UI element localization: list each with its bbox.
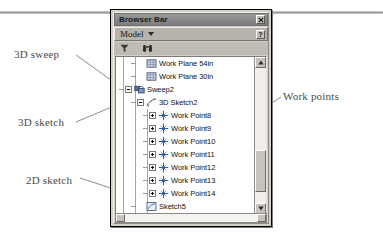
tree-node-label: Work Point9 [171,124,211,133]
collapse-node-button[interactable] [125,86,132,93]
annotation-label-work-points: Work points [283,90,339,102]
tree-connector-stub [119,89,124,90]
expand-node-button[interactable] [149,151,156,158]
tree-indent [116,96,131,109]
expand-node-button[interactable] [149,164,156,171]
model-tree[interactable]: Work Plane 54inWork Plane 30inSweep23D S… [115,56,267,215]
tree-expander-spacer [137,60,146,67]
tree-node[interactable]: Work Point13 [116,174,255,187]
tree-indent [116,135,143,148]
tree-connector-stub [143,128,148,129]
tree-horizontal-scrollbar[interactable] [115,213,267,223]
tree-connector-stub [143,180,148,181]
model-tree-rows: Work Plane 54inWork Plane 30inSweep23D S… [116,57,255,214]
collapse-node-button[interactable] [137,99,144,106]
expand-node-button[interactable] [149,190,156,197]
tree-node-label: Work Point10 [171,137,215,146]
annotation-label-2d-sketch: 2D sketch [26,174,72,186]
tree-node[interactable]: Work Point9 [116,122,255,135]
work-plane-icon [146,58,157,69]
model-selector-label: Model [120,29,144,39]
tree-indent [116,70,131,83]
tree-connector-stub [131,76,136,77]
chevron-down-icon [148,32,154,36]
tree-connector-stub [131,206,136,207]
tree-connector-stub [143,141,148,142]
horizontal-scrollbar-track[interactable] [125,214,257,222]
work-point-icon [158,188,169,199]
tree-node[interactable]: Work Plane 54in [116,57,255,70]
expand-node-button[interactable] [149,125,156,132]
tree-node[interactable]: Sweep2 [116,83,255,96]
work-point-icon [158,149,169,160]
tree-node[interactable]: Work Point11 [116,148,255,161]
tree-connector-stub [131,102,136,103]
sketch-3d-icon [146,97,157,108]
tree-indent [116,200,131,213]
tree-node-label: Work Plane 54in [159,59,213,68]
sweep-icon [134,84,145,95]
close-x-icon [258,17,264,23]
work-plane-icon [146,71,157,82]
help-question-icon: ? [257,31,264,38]
scroll-right-button[interactable] [257,214,266,222]
scroll-left-button[interactable] [116,214,125,222]
tree-node-label: Work Point11 [171,150,215,159]
scroll-up-button[interactable] [255,57,266,68]
tree-node[interactable]: 3D Sketch2 [116,96,255,109]
tree-node[interactable]: Work Plane 30in [116,70,255,83]
window-title: Browser Bar [119,15,168,24]
svg-text:?: ? [258,31,262,38]
expand-node-button[interactable] [149,112,156,119]
filter-funnel-icon [120,44,129,53]
tree-node-label: Work Point14 [171,189,215,198]
tree-connector-stub [143,154,148,155]
tree-node-label: 3D Sketch2 [159,98,197,107]
tree-indent [116,174,143,187]
work-point-icon [158,136,169,147]
work-point-icon [158,110,169,121]
tree-expander-spacer [137,73,146,80]
vertical-scrollbar-thumb[interactable] [255,150,266,192]
expand-node-button[interactable] [149,138,156,145]
tree-connector-stub [131,63,136,64]
annotation-label-3d-sketch: 3D sketch [18,116,64,128]
tree-connector-stub [143,115,148,116]
help-button[interactable]: ? [256,30,265,39]
model-selector[interactable]: Model ? [114,27,268,41]
tree-node-label: Work Plane 30in [159,72,213,81]
tree-connector-stub [143,167,148,168]
sketch-2d-icon [146,201,157,212]
tree-indent [116,57,131,70]
tree-indent [116,109,143,122]
scroll-down-arrow-icon [258,206,264,211]
tree-vertical-scrollbar[interactable] [254,57,266,214]
binoculars-find-icon [142,44,153,53]
tree-node-label: Work Point12 [171,163,215,172]
tree-connector-stub [143,193,148,194]
tree-node-label: Sweep2 [147,85,174,94]
work-point-icon [158,123,169,134]
expand-node-button[interactable] [149,177,156,184]
close-button[interactable] [256,15,265,24]
find-button[interactable] [140,43,155,55]
browser-bar-window: Browser Bar Model ? [110,9,272,227]
tree-node[interactable]: Work Point14 [116,187,255,200]
tree-indent [116,187,143,200]
annotation-label-3d-sweep: 3D sweep [14,48,59,60]
tree-node[interactable]: Work Point8 [116,109,255,122]
work-point-icon [158,162,169,173]
tree-node[interactable]: Work Point12 [116,161,255,174]
scroll-up-arrow-icon [258,60,264,65]
tree-expander-spacer [137,203,146,210]
tree-node-label: Work Point13 [171,176,215,185]
tree-indent [116,148,143,161]
window-title-bar[interactable]: Browser Bar [114,13,268,26]
tree-node[interactable]: Sketch5 [116,200,255,213]
tree-indent [116,122,143,135]
tree-node-label: Work Point8 [171,111,211,120]
work-point-icon [158,175,169,186]
filter-button[interactable] [117,43,132,55]
tree-node-label: Sketch5 [159,202,186,211]
tree-node[interactable]: Work Point10 [116,135,255,148]
